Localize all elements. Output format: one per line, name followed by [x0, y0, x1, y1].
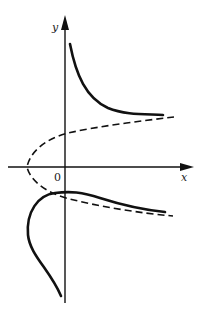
- y-axis-label: y: [51, 21, 59, 34]
- y-axis: [61, 15, 69, 303]
- x-axis-label: x: [181, 171, 188, 184]
- upper-solid-branch: [70, 44, 163, 115]
- origin-label: 0: [54, 171, 61, 184]
- x-axis-arrow-icon: [180, 163, 194, 171]
- lower-solid-branch: [28, 192, 165, 296]
- y-axis-arrow-icon: [61, 15, 69, 30]
- x-axis: [8, 163, 194, 171]
- diagram: y x 0: [0, 0, 206, 318]
